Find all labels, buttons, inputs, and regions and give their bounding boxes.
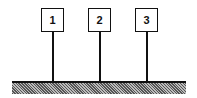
- ground: [12, 81, 186, 94]
- post-box-1: 1: [41, 8, 64, 32]
- post-stem-1: [52, 32, 54, 82]
- post-box-2: 2: [88, 8, 111, 32]
- post-stem-2: [99, 32, 101, 82]
- post-box-3: 3: [135, 8, 158, 32]
- post-stem-3: [146, 32, 148, 82]
